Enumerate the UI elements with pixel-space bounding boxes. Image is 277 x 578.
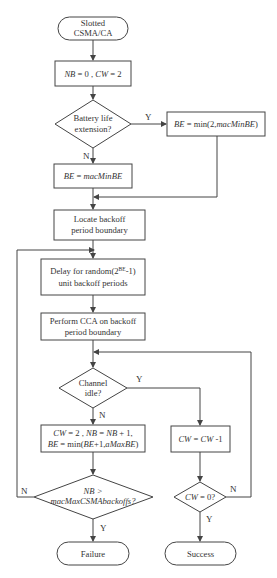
node-nb-decision: NB > macMaxCSMAbackoffs? <box>34 475 153 519</box>
process-shape <box>41 259 145 295</box>
node-update: CW = 2 , NB = NB + 1, BE = min(BE+1,aMax… <box>41 425 145 452</box>
flowchart-canvas: Y N Y N N Y N Y Slotted CSMA/CA NB = 0 ,… <box>0 0 277 578</box>
success-label: Success <box>187 549 215 559</box>
cca-line2: period boundary <box>65 327 122 337</box>
node-failure: Failure <box>57 542 129 565</box>
label-battery-no: N <box>83 151 90 161</box>
node-channel-decision: Channel idle? <box>59 368 127 408</box>
node-cw-decision: CW = 0? <box>174 482 226 512</box>
start-line1: Slotted <box>81 18 106 28</box>
cw-dec-text: CW = CW -1 <box>178 434 222 444</box>
node-cw-dec: CW = CW -1 <box>171 426 230 452</box>
node-success: Success <box>165 542 236 565</box>
be-min-text: BE = min(2,macMinBE) <box>174 119 258 129</box>
locate-line2: period boundary <box>71 225 128 235</box>
label-cw-yes: Y <box>206 514 213 524</box>
node-battery-decision: Battery life extension? <box>55 100 131 148</box>
label-nb-no: N <box>21 486 28 496</box>
update-line1: CW = 2 , NB = NB + 1, <box>53 428 133 438</box>
battery-line1: Battery life <box>74 113 113 123</box>
channel-line1: Channel <box>79 378 108 388</box>
node-delay: Delay for random(2BE-1) unit backoff per… <box>41 259 145 295</box>
node-init: NB = 0 , CW = 2 <box>55 61 131 86</box>
nb-line2: macMaxCSMAbackoffs? <box>51 496 137 506</box>
label-channel-no: N <box>99 410 106 420</box>
node-locate: Locate backoff period boundary <box>54 210 145 240</box>
label-channel-yes: Y <box>136 374 143 384</box>
node-be-min: BE = min(2,macMinBE) <box>167 112 265 136</box>
label-battery-yes: Y <box>145 112 152 122</box>
start-line2: CSMA/CA <box>74 28 113 38</box>
channel-line2: idle? <box>85 388 102 398</box>
init-text: NB = 0 , CW = 2 <box>63 69 121 79</box>
update-line2: BE = min(BE+1,aMaxBE) <box>48 439 139 449</box>
label-cw-no: N <box>230 484 237 494</box>
be-mac-text: BE = macMinBE <box>64 171 123 181</box>
cca-line1: Perform CCA on backoff <box>50 316 137 326</box>
label-nb-yes: Y <box>100 523 107 533</box>
delay-line2: unit backoff periods <box>58 278 128 288</box>
node-start: Slotted CSMA/CA <box>58 17 128 40</box>
edge-channel-yes <box>127 388 200 425</box>
failure-label: Failure <box>81 549 106 559</box>
node-cca: Perform CCA on backoff period boundary <box>41 313 145 340</box>
cw-check-text: CW = 0? <box>185 492 215 502</box>
node-be-mac: BE = macMinBE <box>54 164 132 188</box>
battery-line2: extension? <box>75 124 112 134</box>
nb-line1: NB > <box>83 486 103 496</box>
locate-line1: Locate backoff <box>74 214 126 224</box>
